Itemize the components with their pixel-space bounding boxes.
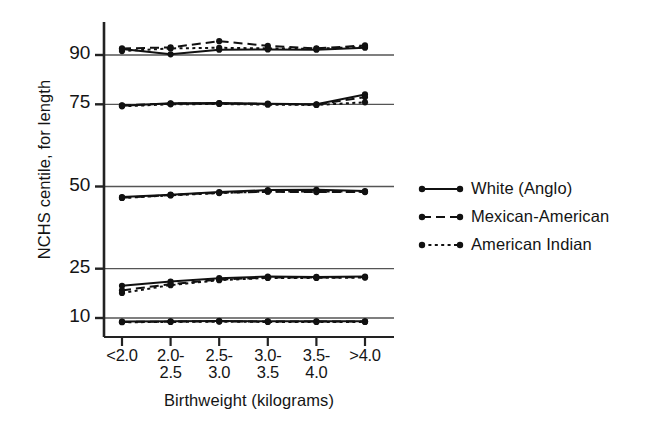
data-point <box>216 190 222 196</box>
data-point <box>216 101 222 107</box>
chart-legend: White (Anglo)Mexican-AmericanAmerican In… <box>418 176 609 260</box>
legend-label: Mexican-American <box>471 207 609 226</box>
y-tick-label-10: 10 <box>46 305 90 327</box>
legend-line-icon <box>418 238 464 252</box>
y-tick-label-90: 90 <box>46 42 90 64</box>
band-4 <box>119 273 368 296</box>
legend-marker-dot <box>419 241 425 247</box>
axis-layer <box>95 22 394 346</box>
data-point <box>216 277 222 283</box>
data-point <box>362 99 368 105</box>
chart-figure: NCHS centile, for length 9075502510 <2.0… <box>0 0 660 424</box>
data-point <box>119 290 125 296</box>
data-point <box>216 319 222 325</box>
legend-marker-dot <box>457 185 463 191</box>
data-point <box>216 45 222 51</box>
data-point <box>216 38 222 44</box>
legend-line-icon <box>418 210 464 224</box>
y-tick-label-25: 25 <box>46 256 90 278</box>
series-layer <box>119 38 368 325</box>
legend-item-dashed: Mexican-American <box>418 204 609 229</box>
data-point <box>362 274 368 280</box>
x-tick-label-line1: >4.0 <box>334 347 396 364</box>
data-point <box>313 275 319 281</box>
legend-key-dashed <box>418 210 464 224</box>
data-point <box>168 101 174 107</box>
legend-item-solid: White (Anglo) <box>418 176 609 201</box>
data-point <box>362 44 368 50</box>
data-point <box>119 103 125 109</box>
band-2 <box>119 91 368 109</box>
band-5 <box>119 318 368 326</box>
data-point <box>265 188 271 194</box>
data-point <box>168 282 174 288</box>
data-point <box>168 45 174 51</box>
data-point <box>265 319 271 325</box>
x-tick-label-line2: 4.0 <box>285 364 347 381</box>
legend-key-dotted <box>418 238 464 252</box>
data-point <box>265 45 271 51</box>
legend-label: American Indian <box>471 235 592 254</box>
y-tick-label-75: 75 <box>46 91 90 113</box>
data-point <box>119 48 125 54</box>
data-point <box>168 51 174 57</box>
data-point <box>265 102 271 108</box>
legend-line-icon <box>418 182 464 196</box>
figure-root: NCHS centile, for length 9075502510 <2.0… <box>0 0 660 424</box>
legend-marker-dot <box>419 213 425 219</box>
data-point <box>119 319 125 325</box>
legend-marker-dot <box>419 185 425 191</box>
legend-label: White (Anglo) <box>471 179 572 198</box>
data-point <box>313 102 319 108</box>
x-tick-label-5: >4.0 <box>334 347 396 364</box>
y-tick-label-50: 50 <box>46 174 90 196</box>
data-point <box>362 189 368 195</box>
data-point <box>168 192 174 198</box>
data-point <box>119 195 125 201</box>
data-point <box>168 319 174 325</box>
legend-marker-dot <box>457 241 463 247</box>
data-point <box>265 275 271 281</box>
legend-key-solid <box>418 182 464 196</box>
x-axis-title: Birthweight (kilograms) <box>104 391 394 410</box>
legend-marker-dot <box>457 213 463 219</box>
data-point <box>313 319 319 325</box>
data-point <box>362 319 368 325</box>
band-3 <box>119 187 368 201</box>
data-point <box>313 46 319 52</box>
data-point <box>313 188 319 194</box>
legend-item-dotted: American Indian <box>418 232 609 257</box>
